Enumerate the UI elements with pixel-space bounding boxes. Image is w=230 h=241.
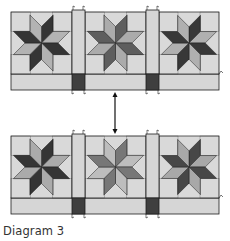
star-block-3	[159, 12, 219, 74]
quilt-row-bottom	[11, 136, 219, 214]
double-arrow-icon	[112, 92, 118, 134]
diagram-caption: Diagram 3	[3, 224, 64, 238]
quilt-row-top	[11, 12, 219, 90]
star-block-1	[11, 12, 72, 74]
star-block-5	[85, 136, 146, 198]
star-block-4	[11, 136, 72, 198]
star-block-6	[159, 136, 219, 198]
star-block-2	[85, 12, 146, 74]
